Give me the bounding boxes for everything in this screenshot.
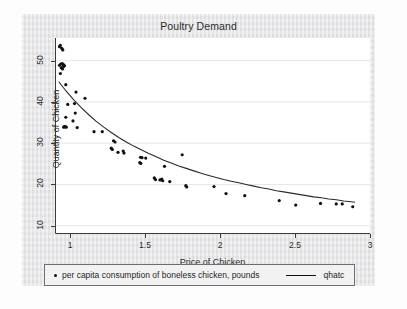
plot-area [55, 38, 370, 234]
scatter-point [101, 130, 104, 133]
scatter-point [154, 178, 157, 181]
legend-label-scatter: per capita consumption of boneless chick… [62, 270, 260, 280]
y-tick-mark [51, 102, 55, 103]
x-tick-label: 3 [358, 240, 382, 250]
scatter-point [224, 192, 227, 195]
dot-marker-icon [54, 274, 57, 277]
scatter-point [76, 126, 79, 129]
scatter-point [181, 153, 184, 156]
x-tick-mark [145, 234, 146, 238]
scatter-point [116, 151, 119, 154]
scatter-point [71, 119, 74, 122]
y-tick-label: 20 [35, 174, 45, 192]
scatter-point [163, 165, 166, 168]
scatter-point [212, 185, 215, 188]
chart-title: Poultry Demand [22, 20, 375, 32]
plot-svg [55, 38, 370, 234]
x-tick-label: 1.5 [133, 240, 157, 250]
axis-spine [56, 38, 371, 234]
scatter-point [140, 156, 143, 159]
x-tick-mark [70, 234, 71, 238]
scatter-point [66, 103, 69, 106]
scatter-point [61, 48, 64, 51]
scatter-point [144, 156, 147, 159]
scatter-point [64, 83, 67, 86]
scatter-point [74, 90, 77, 93]
y-tick-mark [51, 61, 55, 62]
scatter-point [341, 202, 344, 205]
scatter-point [168, 180, 171, 183]
y-tick-label: 30 [35, 133, 45, 151]
y-tick-mark [51, 226, 55, 227]
legend-entry-line: qhatc [260, 270, 345, 280]
scatter-point [92, 130, 95, 133]
scatter-point [74, 112, 77, 115]
scatter-point [351, 205, 354, 208]
chart-legend: per capita consumption of boneless chick… [44, 264, 355, 286]
y-tick-label: 40 [35, 92, 45, 110]
line-marker-icon [286, 275, 316, 276]
scatter-point [63, 64, 66, 67]
y-tick-mark [51, 184, 55, 185]
x-tick-label: 1 [58, 240, 82, 250]
y-tick-mark [51, 143, 55, 144]
x-tick-mark [295, 234, 296, 238]
scatter-point [111, 148, 114, 151]
scatter-point [122, 152, 125, 155]
x-tick-mark [370, 234, 371, 238]
scatter-point [278, 199, 281, 202]
screenshot-root: Poultry Demand Quantity of Chicken Price… [0, 0, 407, 309]
x-tick-mark [220, 234, 221, 238]
scatter-point [64, 116, 67, 119]
x-tick-label: 2.5 [283, 240, 307, 250]
scatter-point [243, 194, 246, 197]
scatter-point [294, 204, 297, 207]
chart-figure-panel: Poultry Demand Quantity of Chicken Price… [22, 14, 375, 286]
scatter-point [113, 140, 116, 143]
scatter-point [83, 97, 86, 100]
scatter-point [62, 126, 65, 129]
scatter-point [161, 179, 164, 182]
scatter-point [139, 162, 142, 165]
scatter-point [185, 185, 188, 188]
legend-entry-scatter: per capita consumption of boneless chick… [45, 270, 260, 280]
scatter-point [319, 202, 322, 205]
legend-label-line: qhatc [324, 270, 345, 280]
y-tick-label: 50 [35, 51, 45, 69]
scatter-point [335, 202, 338, 205]
y-tick-label: 10 [35, 216, 45, 234]
x-tick-label: 2 [208, 240, 232, 250]
